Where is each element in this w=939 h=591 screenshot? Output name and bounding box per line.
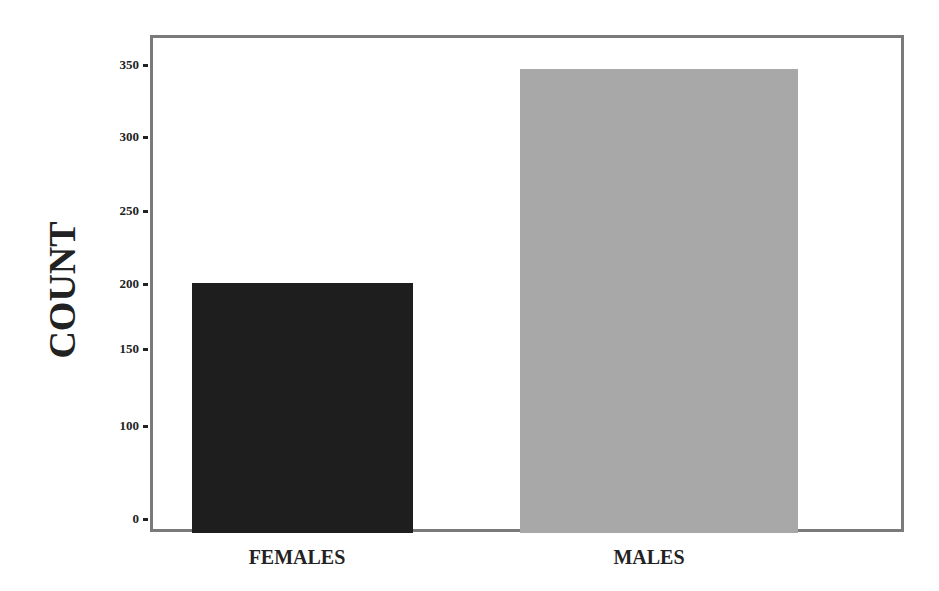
bar-females <box>192 283 413 533</box>
y-tick-300: 300 <box>98 130 148 144</box>
bar-males <box>520 69 798 533</box>
y-tick-150: 150 <box>98 342 148 356</box>
y-tick-100: 100 <box>98 419 148 433</box>
y-tick-label: 100 <box>120 418 140 434</box>
x-label-males: MALES <box>613 546 684 569</box>
y-tick-0: 0 <box>98 512 148 526</box>
y-tick-350: 350 <box>98 58 148 72</box>
y-tick-250: 250 <box>98 204 148 218</box>
y-tick-label: 150 <box>120 341 140 357</box>
y-tick-200: 200 <box>98 277 148 291</box>
y-tick-label: 200 <box>120 276 140 292</box>
y-tick-label: 300 <box>120 129 140 145</box>
x-label-females: FEMALES <box>249 546 346 569</box>
y-tick-label: 0 <box>133 511 140 527</box>
y-tick-label: 350 <box>120 57 140 73</box>
y-axis-label: COUNT <box>40 221 84 358</box>
y-tick-label: 250 <box>120 203 140 219</box>
